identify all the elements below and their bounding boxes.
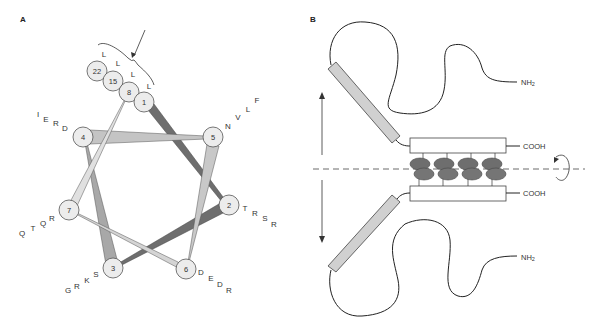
residue-1: 1: [134, 92, 154, 112]
letter: I: [37, 110, 39, 119]
bottom-zipper-box: [410, 186, 506, 201]
letter: R: [226, 286, 232, 295]
panel-a-label: A: [20, 15, 26, 24]
svg-text:4: 4: [81, 133, 85, 142]
letter: S: [93, 270, 98, 279]
letter: R: [271, 220, 277, 229]
helical-wheel: 22 15 8 1 4 5 7 2 3 6 L L L L I E R D N …: [19, 30, 277, 295]
letter: K: [84, 276, 90, 285]
bottom-helix-rod: [328, 195, 400, 272]
residue-2: 2: [219, 195, 239, 215]
top-linker-line: [396, 140, 410, 146]
arrow-up-icon: [319, 92, 325, 99]
top-cooh-label: COOH: [523, 142, 546, 151]
letter: L: [102, 50, 107, 59]
diagram-canvas: A 22 15 8 1 4 5 7 2 3 6 L L L L I E R D …: [0, 0, 599, 326]
letter: T: [31, 224, 36, 233]
letter: V: [235, 113, 241, 122]
letter: R: [74, 282, 80, 291]
bottom-nh2-label: NH2: [521, 253, 535, 263]
svg-text:15: 15: [109, 77, 117, 86]
letter: R: [53, 119, 59, 128]
leucine-bottom-2: [438, 168, 458, 180]
residue-6: 6: [176, 259, 196, 279]
leucine-bottom-4: [486, 168, 506, 180]
letter: T: [243, 204, 248, 213]
svg-text:6: 6: [184, 265, 188, 274]
svg-text:7: 7: [67, 206, 71, 215]
bottom-cooh-label: COOH: [523, 189, 546, 198]
letter: F: [255, 96, 260, 105]
svg-text:22: 22: [93, 67, 101, 76]
svg-text:2: 2: [227, 201, 231, 210]
letter: L: [131, 70, 136, 79]
arrow-down-icon: [319, 236, 325, 243]
wedge-1-2: [148, 104, 229, 207]
leucine-bottom-3: [462, 168, 482, 180]
letter: D: [217, 280, 223, 289]
letter: L: [147, 82, 152, 91]
panel-b-label: B: [310, 15, 316, 24]
letter: L: [246, 105, 251, 114]
wedge-3-4: [85, 143, 118, 265]
letter: Q: [19, 229, 25, 238]
arrow-icon: [134, 30, 145, 56]
letter: L: [116, 59, 121, 68]
letter: D: [198, 268, 204, 277]
leucine-bottom-1: [414, 168, 434, 180]
top-nh2-label: NH2: [521, 78, 535, 88]
bottom-linker-line: [397, 193, 410, 199]
residue-5: 5: [203, 127, 223, 147]
rotation-arrowhead-icon: [554, 157, 559, 163]
letter: E: [43, 115, 48, 124]
svg-text:3: 3: [111, 264, 115, 273]
residue-7: 7: [59, 200, 79, 220]
letter: Q: [40, 219, 46, 228]
letter: D: [62, 124, 68, 133]
letter: N: [225, 122, 231, 131]
svg-text:8: 8: [127, 88, 131, 97]
top-helix-rod: [328, 62, 400, 143]
residue-4: 4: [73, 127, 93, 147]
svg-text:1: 1: [142, 98, 146, 107]
residue-3: 3: [103, 258, 123, 278]
letter: S: [262, 214, 267, 223]
letter: G: [65, 286, 71, 295]
top-zipper-box: [410, 138, 506, 153]
leucine-pairs: [410, 153, 506, 186]
wedge-2-3: [114, 198, 229, 268]
dimer-model: NH2 COOH COOH: [313, 22, 585, 316]
letter: R: [49, 214, 55, 223]
letter: R: [252, 209, 258, 218]
svg-text:5: 5: [211, 133, 215, 142]
letter: E: [208, 274, 213, 283]
